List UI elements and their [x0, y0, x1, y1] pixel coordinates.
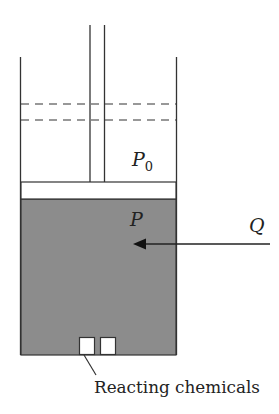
piston: [21, 182, 176, 199]
internal-pressure-label: P: [129, 208, 144, 230]
chemical-box-2: [101, 338, 116, 355]
ambient-pressure-label: P0: [131, 148, 153, 174]
chemicals-label: Reacting chemicals: [94, 378, 260, 397]
piston-cylinder-diagram: P0 P Q Reacting chemicals: [0, 0, 279, 414]
chemical-box-1: [80, 338, 95, 355]
chemicals-leader-line: [84, 355, 96, 375]
heat-label: Q: [249, 214, 265, 236]
gas-region: [21, 199, 176, 355]
